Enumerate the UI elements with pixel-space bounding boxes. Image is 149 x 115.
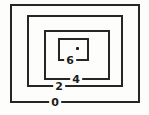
contour-figure: 6 4 2 0 xyxy=(0,0,149,115)
contour-label-2: 2 xyxy=(53,81,65,92)
contour-label-6: 6 xyxy=(64,55,76,66)
contour-label-0: 0 xyxy=(49,97,61,108)
contour-label-4: 4 xyxy=(70,74,82,85)
center-point-dot xyxy=(76,47,79,50)
